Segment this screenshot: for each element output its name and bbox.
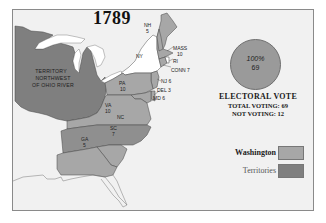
- label-mass-votes: 10: [177, 51, 183, 57]
- legend-label-washington: Washington: [235, 148, 276, 157]
- atlantic-coast-outline: [113, 175, 127, 205]
- territory-label-2: NORTHWEST: [35, 75, 71, 81]
- gulf-coast-outline: [13, 175, 127, 207]
- electoral-vote-title: ELECTORAL VOTE: [208, 92, 308, 101]
- electoral-pie-chart: 100% 69: [230, 39, 281, 90]
- label-del: DEL 3: [157, 87, 171, 93]
- label-conn: CONN 7: [171, 67, 190, 73]
- label-sc-votes: 7: [112, 131, 115, 137]
- label-nj: NJ 6: [161, 78, 172, 84]
- label-ri: RI: [173, 58, 178, 64]
- label-nc: NC: [117, 114, 125, 120]
- callout-conn: [163, 65, 171, 67]
- label-nh-votes: 5: [146, 28, 149, 34]
- territory-label-1: TERRITORY: [35, 68, 67, 74]
- legend-label-territories: Territories: [243, 166, 276, 175]
- total-voting: TOTAL VOTING: 69: [208, 102, 308, 109]
- legend-swatch-washington: [278, 146, 304, 160]
- label-va-votes: 10: [105, 108, 111, 114]
- legend-item-territories: Territories: [200, 164, 310, 178]
- label-ny: NY: [136, 53, 144, 59]
- label-pa-votes: 10: [120, 86, 126, 92]
- territory-label-3: OF OHIO RIVER: [32, 82, 74, 88]
- pie-value: 69: [231, 64, 280, 71]
- legend-swatch-territories: [278, 164, 304, 178]
- pie-percent: 100%: [231, 55, 280, 62]
- legend-item-washington: Washington: [200, 146, 310, 160]
- not-voting: NOT VOTING: 12: [208, 110, 308, 117]
- map-title-year: 1789: [93, 8, 131, 29]
- label-ga-votes: 5: [83, 142, 86, 148]
- label-md: MD 6: [153, 95, 165, 101]
